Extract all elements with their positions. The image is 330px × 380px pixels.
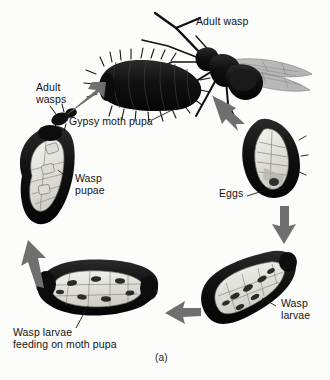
label-eggs: Eggs [219,188,243,200]
life-cycle-illustration [0,0,330,380]
wasp-life-cycle-figure: Adult wasp Adult wasps Gypsy moth pupa W… [0,0,330,380]
arrow-eggs-to-larvae [272,206,296,244]
label-wasp-larvae: Wasp larvae [281,298,310,321]
figure-caption: (a) [155,352,168,363]
arrow-feeding-to-pupae [21,240,46,288]
label-wasp-pupae: Wasp pupae [75,173,105,196]
label-adult-wasp: Adult wasp [196,16,248,28]
label-wasp-larvae-feeding: Wasp larvae feeding on moth pupa [13,327,117,350]
arrow-larvae-to-feeding [165,301,201,324]
label-gypsy-moth-pupa: Gypsy moth pupa [69,116,153,128]
eggs-stage [242,119,308,198]
wasp-pupae-stage [20,125,75,224]
larvae-feeding-stage [36,260,158,316]
label-adult-wasps: Adult wasps [36,82,66,105]
arrow-wasps-to-moth [64,82,106,117]
